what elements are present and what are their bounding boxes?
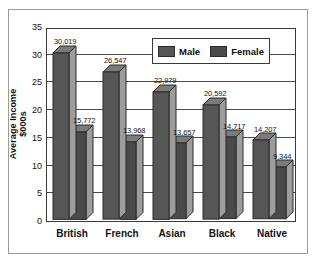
x-category-label-black: Black [209, 228, 236, 239]
legend-label-female: Female [231, 46, 264, 57]
y-axis-title-line1: Average Income [8, 89, 18, 160]
legend-label-male: Male [179, 46, 200, 57]
bar-male-black [203, 107, 219, 221]
bar-value-label: 22,979 [154, 77, 176, 85]
bar-female-british [70, 134, 86, 221]
y-axis-title: Average Income $000s [11, 66, 25, 182]
bar-value-label: 13,968 [123, 127, 145, 135]
y-tick-label: 15 [32, 133, 42, 142]
chart-legend: Male Female [152, 38, 270, 64]
x-category-label-french: French [105, 228, 138, 239]
bar-3d-faces [170, 136, 195, 221]
x-category-label-british: British [56, 228, 88, 239]
bar-value-label: 9,344 [273, 153, 291, 161]
bar-3d-faces [220, 130, 245, 221]
y-axis-title-line2: $000s [18, 111, 28, 137]
x-category-label-native: Native [257, 228, 287, 239]
x-category-label-asian: Asian [158, 228, 185, 239]
bar-3d-faces [70, 125, 95, 221]
bar-male-french [103, 74, 119, 221]
bar-value-label: 15,772 [73, 117, 95, 125]
legend-item-female: Female [210, 46, 264, 57]
bar-value-label: 14,207 [254, 126, 276, 134]
bar-value-label: 14,717 [223, 123, 245, 131]
bar-3d-faces [270, 160, 295, 221]
legend-swatch-female [210, 46, 227, 57]
bar-3d-faces [120, 135, 145, 221]
chart-figure: Average Income $000s 05101520253035 30,0… [0, 0, 318, 264]
bar-male-asian [153, 94, 169, 221]
bar-female-black [220, 139, 236, 221]
gridline [47, 109, 295, 110]
bar-value-label: 13,657 [173, 129, 195, 137]
y-tick-label: 5 [37, 189, 42, 198]
bar-female-asian [170, 145, 186, 221]
legend-swatch-male [158, 46, 175, 57]
y-tick-label: 0 [37, 217, 42, 226]
y-tick-label: 10 [32, 161, 42, 170]
bar-value-label: 30,019 [54, 38, 76, 46]
bar-female-native [270, 169, 286, 221]
bar-female-french [120, 144, 136, 221]
y-tick-label: 35 [32, 23, 42, 32]
y-tick-label: 20 [32, 106, 42, 115]
y-tick-label: 30 [32, 50, 42, 59]
bar-male-british [53, 55, 69, 221]
y-tick-label: 25 [32, 78, 42, 87]
bar-value-label: 26,547 [104, 57, 126, 65]
legend-item-male: Male [158, 46, 200, 57]
bar-value-label: 20,592 [204, 90, 226, 98]
bar-male-native [253, 142, 269, 221]
